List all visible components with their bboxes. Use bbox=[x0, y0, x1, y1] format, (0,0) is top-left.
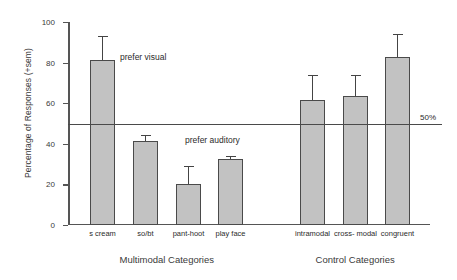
error-bar-stem-0 bbox=[102, 36, 103, 59]
bar-play-face bbox=[218, 159, 243, 225]
x-axis-line bbox=[68, 224, 430, 226]
y-tick-100: 100 bbox=[63, 22, 68, 23]
y-tick-40: 40 bbox=[63, 144, 68, 145]
error-bar-cap-4 bbox=[308, 75, 318, 76]
bar-cross-modal bbox=[343, 96, 368, 225]
plot-area: 020406080100 50% prefer visualprefer aud… bbox=[68, 22, 430, 225]
bar-congruent bbox=[385, 57, 410, 225]
error-bar-cap-2 bbox=[184, 166, 194, 167]
reference-line-50 bbox=[68, 124, 442, 125]
y-tick-label-40: 40 bbox=[46, 139, 55, 148]
y-tick-label-0: 0 bbox=[51, 221, 55, 230]
error-bar-cap-0 bbox=[98, 36, 108, 37]
group-label-multimodal-categories: Multimodal Categories bbox=[119, 254, 214, 265]
bar-so-bt bbox=[133, 141, 158, 225]
x-label-intramodal: intramodal bbox=[295, 229, 330, 238]
group-label-control-categories: Control Categories bbox=[316, 254, 395, 265]
bar-intramodal bbox=[300, 100, 325, 225]
y-tick-label-20: 20 bbox=[46, 180, 55, 189]
x-label-s-cream: s cream bbox=[89, 229, 116, 238]
y-tick-label-80: 80 bbox=[46, 58, 55, 67]
y-tick-label-60: 60 bbox=[46, 99, 55, 108]
annotation-prefer-visual: prefer visual bbox=[120, 52, 166, 62]
bar-pant-hoot bbox=[176, 184, 201, 225]
x-label-play-face: play face bbox=[215, 229, 245, 238]
error-bar-stem-5 bbox=[355, 75, 356, 96]
y-tick-60: 60 bbox=[63, 103, 68, 104]
error-bar-stem-4 bbox=[312, 75, 313, 100]
error-bar-cap-1 bbox=[141, 135, 151, 136]
y-tick-80: 80 bbox=[63, 63, 68, 64]
y-tick-0: 0 bbox=[63, 225, 68, 226]
error-bar-stem-6 bbox=[397, 34, 398, 56]
error-bar-cap-6 bbox=[393, 34, 403, 35]
bar-chart: Percentage of Responses (+sem) 020406080… bbox=[0, 0, 457, 280]
x-label-pant-hoot: pant-hoot bbox=[173, 229, 205, 238]
bar-s-cream bbox=[90, 60, 115, 225]
y-tick-label-100: 100 bbox=[42, 18, 55, 27]
x-label-so-bt: so/bt bbox=[137, 229, 153, 238]
x-label-congruent: congruent bbox=[381, 229, 414, 238]
y-tick-20: 20 bbox=[63, 184, 68, 185]
reference-line-label: 50% bbox=[420, 113, 436, 122]
x-label-cross-modal: cross- modal bbox=[334, 229, 377, 238]
y-axis-title: Percentage of Responses (+sem) bbox=[23, 13, 33, 213]
error-bar-cap-3 bbox=[226, 156, 236, 157]
annotation-prefer-auditory: prefer auditory bbox=[185, 135, 240, 145]
error-bar-cap-5 bbox=[351, 75, 361, 76]
error-bar-stem-2 bbox=[188, 166, 189, 184]
